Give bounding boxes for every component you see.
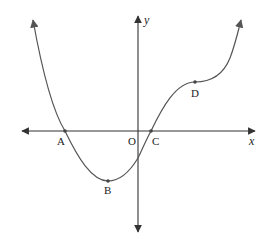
graph-canvas: A B C D O x y — [0, 0, 270, 238]
label-c: C — [152, 135, 159, 147]
label-d: D — [191, 87, 199, 99]
point-a — [63, 129, 67, 133]
function-curve — [33, 20, 241, 181]
point-c — [149, 129, 153, 133]
label-origin: O — [128, 135, 136, 147]
x-axis-label: x — [248, 134, 255, 148]
point-d — [193, 80, 197, 84]
label-b: B — [104, 184, 111, 196]
label-a: A — [57, 135, 65, 147]
point-b — [106, 179, 110, 183]
y-axis-label: y — [143, 13, 150, 27]
